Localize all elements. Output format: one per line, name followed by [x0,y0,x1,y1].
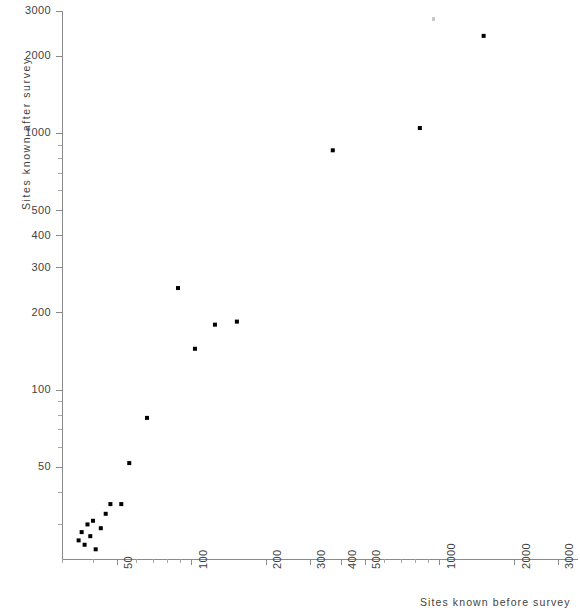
data-point [418,126,422,130]
y-axis-title: Sites known after survey [20,57,32,210]
data-point [482,34,486,38]
y-tick-label: 400 [0,229,51,241]
data-point [77,538,81,542]
x-tick-label: 400 [346,549,358,569]
x-tick-label: 500 [370,549,382,569]
data-point [80,530,84,534]
faint-mark [432,17,435,21]
x-tick-label: 2000 [520,543,532,569]
data-point [99,526,103,530]
data-point [331,148,335,152]
x-tick-label: 3000 [563,543,575,569]
data-point [83,543,87,547]
plot-area [0,0,580,611]
data-point [88,534,92,538]
data-point [213,323,217,327]
data-point [127,461,131,465]
x-tick-label: 50 [122,556,134,569]
data-point [235,320,239,324]
data-point [94,547,98,551]
data-point [193,347,197,351]
axis-ticks [56,11,558,565]
y-tick-label: 3000 [0,4,51,16]
data-point [119,502,123,506]
data-point [85,522,89,526]
y-tick-label: 100 [0,383,51,395]
x-tick-label: 300 [315,549,327,569]
data-point [108,502,112,506]
y-tick-label: 200 [0,306,51,318]
x-tick-label: 100 [197,549,209,569]
y-tick-label: 300 [0,261,51,273]
axes [62,11,578,559]
data-points [77,34,486,551]
data-point [176,286,180,290]
scatter-chart: 50100200300400500100020003000 5010020030… [0,0,580,611]
data-point [91,519,95,523]
data-point [104,512,108,516]
stray-marks [432,17,435,21]
x-axis-title: Sites known before survey [420,596,571,608]
y-tick-label: 50 [0,460,51,472]
x-tick-label: 1000 [445,543,457,569]
data-point [145,416,149,420]
x-tick-label: 200 [271,549,283,569]
